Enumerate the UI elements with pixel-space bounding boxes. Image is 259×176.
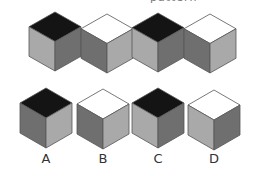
sequence-cube-4	[184, 14, 236, 73]
option-cube-c[interactable]	[132, 88, 184, 148]
option-label-b[interactable]: B	[93, 151, 113, 166]
option-label-a[interactable]: A	[36, 151, 56, 166]
cube-puzzle-canvas	[0, 0, 259, 176]
option-cube-b[interactable]	[77, 89, 129, 149]
sequence-cube-1	[29, 12, 81, 71]
sequence-cube-3	[132, 13, 184, 72]
option-cube-d[interactable]	[188, 90, 240, 150]
option-cube-a[interactable]	[20, 88, 72, 148]
option-label-d[interactable]: D	[204, 151, 224, 166]
option-label-c[interactable]: C	[148, 151, 168, 166]
sequence-cube-2	[81, 14, 133, 73]
